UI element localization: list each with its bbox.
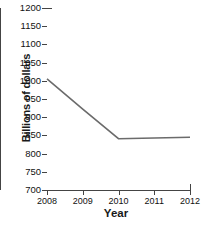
series-layer bbox=[0, 0, 202, 227]
line-chart: Billions of dollars Year 700750800850900… bbox=[0, 0, 202, 227]
data-series-line bbox=[47, 79, 190, 139]
